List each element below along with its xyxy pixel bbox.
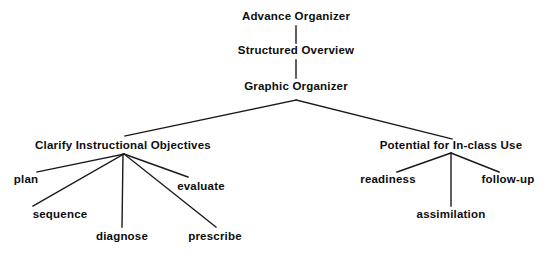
edge-clarify-objectives-to-sequence [33, 154, 124, 206]
edge-clarify-objectives-to-diagnose [122, 154, 123, 227]
node-advance-organizer: Advance Organizer [242, 11, 350, 23]
node-readiness: readiness [360, 174, 416, 186]
node-structured-overview: Structured Overview [238, 45, 354, 57]
edge-graphic-organizer-to-in-class-use [296, 100, 452, 139]
edge-clarify-objectives-to-plan [37, 154, 124, 172]
edge-graphic-organizer-to-clarify-objectives [125, 100, 296, 136]
node-follow-up: follow-up [482, 174, 535, 186]
node-prescribe: prescribe [188, 231, 242, 243]
node-clarify-objectives: Clarify Instructional Objectives [35, 140, 211, 152]
edge-clarify-objectives-to-evaluate [124, 154, 188, 177]
node-sequence: sequence [33, 209, 88, 221]
node-evaluate: evaluate [177, 181, 225, 193]
node-graphic-organizer: Graphic Organizer [244, 81, 348, 93]
edge-in-class-use-to-follow-up [451, 153, 499, 172]
edge-in-class-use-to-readiness [397, 153, 451, 172]
node-in-class-use: Potential for In-class Use [380, 140, 523, 152]
concept-map-diagram: Advance OrganizerStructured OverviewGrap… [0, 0, 557, 253]
node-plan: plan [14, 174, 38, 186]
node-assimilation: assimilation [417, 209, 486, 221]
node-diagnose: diagnose [96, 231, 148, 243]
